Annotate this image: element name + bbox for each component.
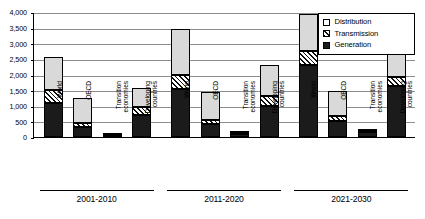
- period-rule: [167, 190, 281, 191]
- y-axis-tick: [31, 60, 34, 61]
- y-axis-tick-label: 0: [0, 134, 27, 141]
- period-label: 2011-2020: [167, 194, 281, 204]
- period-label: 2021-2030: [294, 194, 408, 204]
- y-axis-tick: [31, 107, 34, 108]
- category-label: OECD: [212, 81, 219, 141]
- y-axis-tick-label: 2,500: [0, 56, 27, 63]
- period-rule: [294, 190, 408, 191]
- y-axis-tick-label: 500: [0, 119, 27, 126]
- y-axis-tick-label: 3,000: [0, 41, 27, 48]
- y-axis-tick: [31, 122, 34, 123]
- y-axis-tick: [31, 44, 34, 45]
- category-label: Transition economies: [115, 81, 129, 141]
- gridline: [34, 76, 415, 77]
- y-axis-tick: [31, 13, 34, 14]
- distribution-segment: [299, 14, 318, 52]
- y-axis-tick-label: 2,000: [0, 72, 27, 79]
- category-label: World: [56, 81, 63, 141]
- category-label: Developing countries: [144, 81, 158, 141]
- legend-item: Distribution: [323, 17, 411, 29]
- y-axis-tick-label: 1,500: [0, 88, 27, 95]
- y-axis-tick: [31, 76, 34, 77]
- generation-swatch: [323, 42, 330, 49]
- category-label: World: [183, 81, 190, 141]
- legend-label: Distribution: [335, 18, 372, 26]
- y-axis-tick: [31, 91, 34, 92]
- category-label: World: [310, 81, 317, 141]
- transmission-swatch: [323, 30, 330, 37]
- legend-label: Transmission: [335, 30, 379, 38]
- legend-item: Generation: [323, 40, 411, 52]
- stacked-bar-chart: 05001,0001,5002,0002,5003,0003,5004,000 …: [0, 0, 425, 219]
- distribution-segment: [171, 29, 190, 74]
- category-label: Developing countries: [271, 81, 285, 141]
- y-axis-tick-label: 1,000: [0, 103, 27, 110]
- y-axis-tick-label: 3,500: [0, 25, 27, 32]
- category-label: Transition economies: [369, 81, 383, 141]
- period-rule: [40, 190, 154, 191]
- y-axis-tick: [31, 138, 34, 139]
- transmission-segment: [299, 51, 318, 65]
- legend-label: Generation: [335, 41, 372, 49]
- category-label: Transition economies: [242, 81, 256, 141]
- y-axis-tick-label: 4,000: [0, 9, 27, 16]
- legend-item: Transmission: [323, 28, 411, 40]
- period-label: 2001-2010: [40, 194, 154, 204]
- category-label: OECD: [85, 81, 92, 141]
- distribution-swatch: [323, 19, 330, 26]
- category-label: Developing countries: [399, 81, 413, 141]
- y-axis-tick: [31, 29, 34, 30]
- category-label: OECD: [340, 81, 347, 141]
- gridline: [34, 60, 415, 61]
- chart-legend: DistributionTransmissionGeneration: [318, 13, 415, 55]
